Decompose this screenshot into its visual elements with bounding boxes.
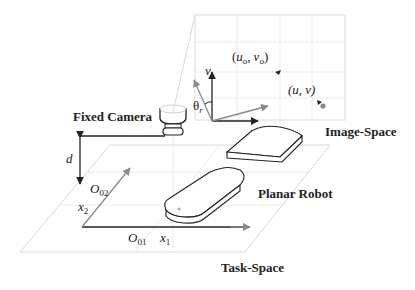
image-space-label: Image-Space [325, 124, 397, 139]
fixed-camera-label: Fixed Camera [73, 109, 153, 124]
x1-label: x1 [159, 230, 170, 247]
v-axis-label: v [205, 63, 211, 78]
theta-label: θr [193, 98, 203, 115]
camera-icon [160, 105, 186, 135]
distance-label: d [66, 151, 73, 166]
current-point-dot [320, 103, 325, 108]
distance-indicator: d [66, 136, 165, 184]
image-axes [194, 72, 268, 121]
o02-label: O02 [90, 181, 108, 198]
o01-label: O01 [128, 230, 146, 247]
planar-robot-icon [165, 126, 302, 223]
x2-label: x2 [77, 199, 88, 216]
projection-ray [173, 15, 195, 112]
visual-servoing-diagram: d Fixed Camera v u θr (uo,vo) (u, v) Ima… [0, 0, 415, 290]
planar-robot-label: Planar Robot [258, 186, 333, 201]
origin-point-label: (uo,vo) [232, 49, 268, 66]
task-space-label: Task-Space [221, 260, 284, 275]
current-point-label: (u, v) [288, 82, 315, 97]
